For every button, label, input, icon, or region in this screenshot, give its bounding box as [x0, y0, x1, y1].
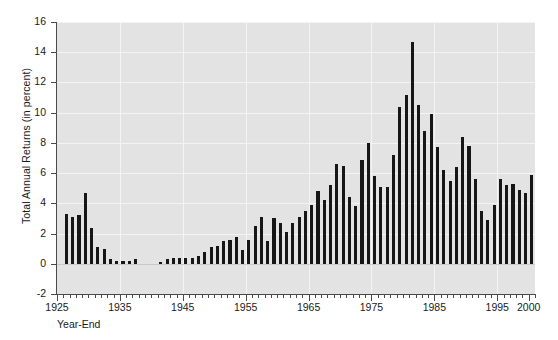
x-tick-mark-minor: [70, 294, 71, 298]
x-tick-mark-minor: [353, 294, 354, 298]
x-tick-mark-minor: [409, 294, 410, 298]
y-tick-label: 0: [20, 257, 46, 269]
x-tick-mark-minor: [139, 294, 140, 298]
x-tick-mark-minor: [453, 294, 454, 298]
bar: [329, 185, 332, 264]
bar: [90, 228, 93, 264]
x-tick-mark-minor: [214, 294, 215, 298]
x-axis-title: Year-End: [57, 318, 100, 330]
bar: [71, 217, 74, 264]
x-tick-mark-major: [120, 294, 121, 301]
bar: [197, 256, 200, 264]
bar: [216, 246, 219, 264]
x-tick-mark-minor: [132, 294, 133, 298]
bar: [279, 223, 282, 264]
x-tick-mark-minor: [302, 294, 303, 298]
x-tick-mark-major: [497, 294, 498, 301]
y-tick-mark: [51, 234, 56, 235]
x-tick-mark-minor: [95, 294, 96, 298]
x-tick-mark-minor: [88, 294, 89, 298]
bar: [103, 249, 106, 264]
bar: [96, 247, 99, 264]
x-tick-label: 2000: [509, 301, 549, 313]
gridline-horizontal: [57, 22, 535, 23]
bar: [373, 176, 376, 264]
x-tick-mark-minor: [145, 294, 146, 298]
x-tick-mark-minor: [491, 294, 492, 298]
y-tick-label: 4: [20, 196, 46, 208]
x-tick-label: 1945: [163, 301, 203, 313]
x-tick-mark-minor: [202, 294, 203, 298]
x-tick-mark-minor: [296, 294, 297, 298]
x-tick-mark-minor: [101, 294, 102, 298]
bar: [499, 179, 502, 264]
bar: [260, 217, 263, 264]
y-tick-mark: [51, 52, 56, 53]
bar: [298, 217, 301, 264]
x-tick-mark-minor: [340, 294, 341, 298]
x-tick-mark-minor: [265, 294, 266, 298]
bar: [398, 107, 401, 264]
bar: [254, 226, 257, 264]
x-tick-mark-minor: [522, 294, 523, 298]
x-tick-label: 1985: [414, 301, 454, 313]
bar: [467, 146, 470, 264]
y-tick-mark: [51, 264, 56, 265]
bar: [291, 223, 294, 264]
bar: [222, 241, 225, 264]
bar: [354, 206, 357, 263]
x-tick-mark-minor: [327, 294, 328, 298]
bar: [430, 114, 433, 264]
x-tick-mark-minor: [227, 294, 228, 298]
x-tick-mark-minor: [472, 294, 473, 298]
bar: [411, 42, 414, 264]
bar: [65, 214, 68, 264]
y-tick-label: 10: [20, 106, 46, 118]
bar: [530, 175, 533, 264]
y-tick-mark: [51, 173, 56, 174]
x-tick-mark-minor: [271, 294, 272, 298]
x-tick-mark-minor: [485, 294, 486, 298]
bar: [310, 205, 313, 264]
y-tick-mark: [51, 82, 56, 83]
x-tick-mark-minor: [170, 294, 171, 298]
bar: [386, 187, 389, 264]
x-tick-mark-minor: [208, 294, 209, 298]
x-tick-mark-minor: [466, 294, 467, 298]
y-tick-label: 16: [20, 15, 46, 27]
x-tick-label: 1955: [226, 301, 266, 313]
x-tick-mark-minor: [76, 294, 77, 298]
x-tick-mark-minor: [315, 294, 316, 298]
x-tick-mark-minor: [384, 294, 385, 298]
bar: [405, 95, 408, 264]
y-tick-label: 8: [20, 136, 46, 148]
bar: [285, 232, 288, 264]
x-tick-mark-minor: [504, 294, 505, 298]
gridline-horizontal: [57, 82, 535, 83]
gridline-vertical: [120, 22, 121, 294]
x-tick-mark-minor: [510, 294, 511, 298]
x-tick-mark-minor: [346, 294, 347, 298]
x-tick-label: 1935: [100, 301, 140, 313]
x-tick-mark-minor: [189, 294, 190, 298]
x-tick-mark-minor: [107, 294, 108, 298]
x-tick-mark-minor: [447, 294, 448, 298]
bar: [235, 237, 238, 264]
x-tick-mark-minor: [422, 294, 423, 298]
y-tick-label: 12: [20, 75, 46, 87]
chart-figure: Total Annual Returns (in percent) Year-E…: [0, 0, 558, 340]
x-tick-mark-minor: [114, 294, 115, 298]
bar: [379, 187, 382, 264]
x-tick-mark-minor: [63, 294, 64, 298]
plot-area: [57, 22, 535, 294]
x-tick-mark-minor: [283, 294, 284, 298]
bar: [392, 155, 395, 264]
bar: [480, 211, 483, 264]
x-tick-label: 1975: [351, 301, 391, 313]
bar: [228, 240, 231, 264]
bar: [342, 166, 345, 264]
bar: [505, 185, 508, 264]
y-tick-mark: [51, 143, 56, 144]
y-axis-line: [56, 22, 57, 295]
bar: [511, 184, 514, 264]
